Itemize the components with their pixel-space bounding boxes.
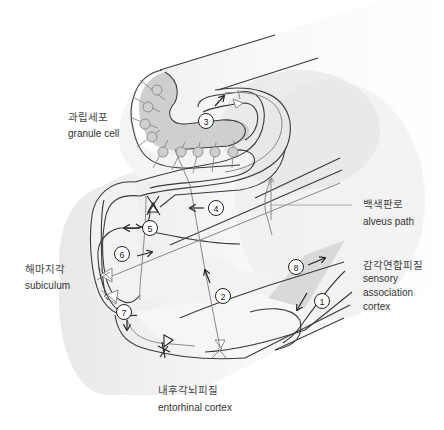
step-marker-5: 5 [143,221,158,236]
svg-text:2: 2 [220,292,225,302]
step-marker-6: 6 [115,247,130,262]
svg-text:8: 8 [293,263,298,273]
step-marker-7: 7 [117,305,132,320]
label-subiculum-en: subiculum [25,279,70,293]
label-granule-cell-ko: 과립세포 [68,110,119,124]
label-sensory-association-cortex-en-3: cortex [363,300,423,314]
svg-text:3: 3 [203,117,208,127]
svg-text:7: 7 [121,308,126,318]
label-sensory-association-cortex-ko: 감각연합피질 [363,258,423,272]
step-marker-3: 3 [199,114,214,129]
label-sensory-association-cortex: 감각연합피질 sensory association cortex [363,258,423,314]
label-alveus-path-en: alveus path [363,215,414,229]
label-subiculum: 해마지각 subiculum [25,262,70,293]
label-sensory-association-cortex-en-1: sensory [363,272,423,286]
svg-text:6: 6 [119,250,124,260]
step-marker-8: 8 [289,260,304,275]
label-alveus-path: 백색판로 alveus path [363,197,414,229]
step-marker-2: 2 [216,289,231,304]
label-entorhinal-cortex-ko: 내후각뇌피질 [158,383,232,397]
svg-text:4: 4 [213,204,218,214]
label-entorhinal-cortex-en: entorhinal cortex [158,401,232,415]
label-sensory-association-cortex-en-2: association [363,286,423,300]
step-marker-4: 4 [209,201,224,216]
svg-text:5: 5 [147,224,152,234]
label-alveus-path-ko: 백색판로 [363,197,414,211]
label-entorhinal-cortex: 내후각뇌피질 entorhinal cortex [158,383,232,415]
svg-text:1: 1 [319,297,324,307]
label-subiculum-ko: 해마지각 [25,262,70,276]
step-marker-1: 1 [315,294,330,309]
label-granule-cell-en: granule cell [68,127,119,141]
label-granule-cell: 과립세포 granule cell [68,110,119,141]
